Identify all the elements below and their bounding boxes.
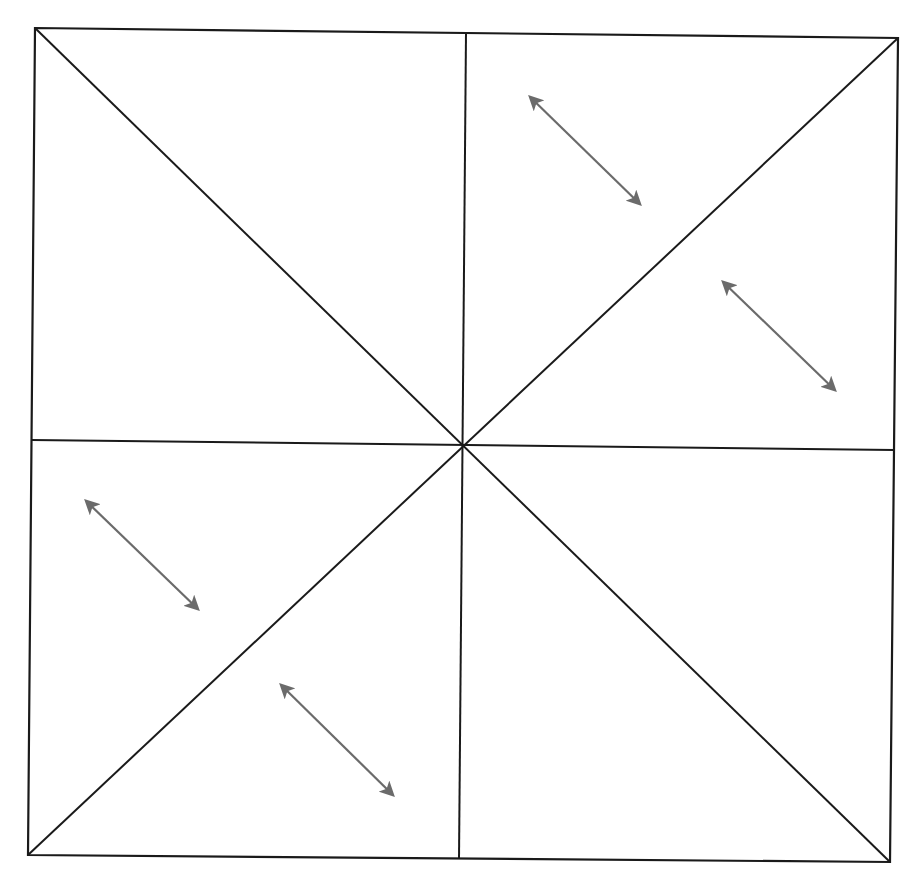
arrow-bottom-left-upper-double-arrow-icon <box>87 502 197 608</box>
arrow-top-right-lower-double-arrow-icon <box>724 283 834 389</box>
diagram-canvas <box>0 0 923 891</box>
arrow-bottom-left-lower-double-arrow-icon <box>282 686 392 794</box>
fold-lines <box>28 28 898 862</box>
arrow-top-right-upper-double-arrow-icon <box>531 98 639 203</box>
folding-diagram <box>0 0 923 891</box>
